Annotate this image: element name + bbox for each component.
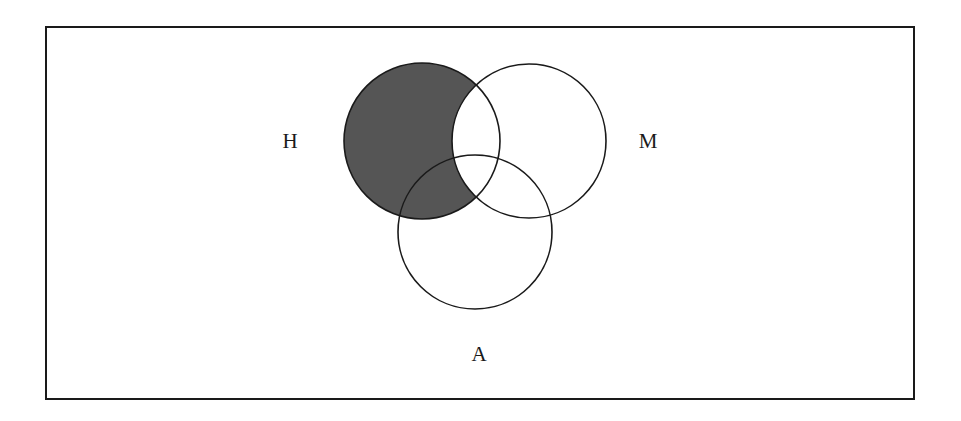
set-h-label: H [282, 129, 297, 153]
venn-diagram: H M A [0, 0, 961, 421]
set-a-label: A [471, 342, 487, 366]
set-m-label: M [639, 129, 658, 153]
